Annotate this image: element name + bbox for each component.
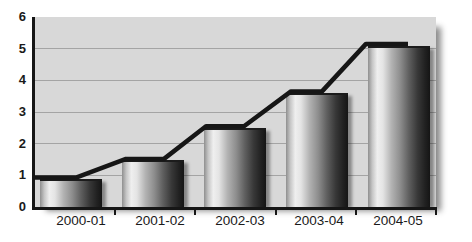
y-axis (32, 17, 35, 210)
x-axis-tick-1 (194, 210, 196, 215)
y-axis-label-5: 5 (0, 42, 26, 56)
bar-2002-03 (204, 128, 266, 207)
y-axis-label-6: 6 (0, 10, 26, 24)
bar-2000-01 (40, 179, 102, 208)
x-axis-tick-2 (275, 210, 277, 215)
y-axis-label-3: 3 (0, 105, 26, 119)
y-axis-label-0: 0 (0, 200, 26, 214)
x-axis-tick-3 (355, 210, 357, 215)
bar-line-chart: 0123456 2000-012001-022002-032003-042004… (0, 0, 472, 242)
x-axis-label-2002-03: 2002-03 (198, 213, 282, 229)
x-axis-tick-0 (114, 210, 116, 215)
x-axis-label-2001-02: 2001-02 (118, 213, 202, 229)
bar-2004-05 (368, 46, 430, 208)
y-axis-label-4: 4 (0, 73, 26, 87)
x-axis-label-2003-04: 2003-04 (277, 213, 361, 229)
x-axis (32, 207, 437, 210)
x-axis-tick-4 (435, 210, 437, 215)
bar-2003-04 (286, 93, 348, 207)
x-axis-label-2000-01: 2000-01 (39, 213, 123, 229)
bar-2001-02 (122, 160, 184, 208)
x-axis-label-2004-05: 2004-05 (356, 213, 440, 229)
y-axis-label-1: 1 (0, 168, 26, 182)
y-axis-label-2: 2 (0, 137, 26, 151)
